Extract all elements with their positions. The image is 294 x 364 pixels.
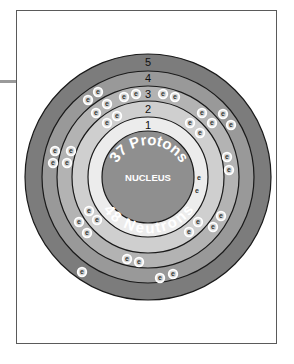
electron-shell-2: e <box>92 215 102 225</box>
svg-text:e: e <box>171 270 175 277</box>
electron-shell-3: e <box>170 92 180 102</box>
svg-text:e: e <box>219 212 223 219</box>
electron-shell-3: e <box>122 254 132 264</box>
electron-shell-3: e <box>131 89 141 99</box>
svg-text:e: e <box>51 159 55 166</box>
svg-text:e: e <box>69 147 73 154</box>
shell-5-label: 5 <box>145 56 151 68</box>
svg-text:e: e <box>134 90 138 97</box>
svg-text:e: e <box>53 147 57 154</box>
svg-text:e: e <box>198 129 202 136</box>
electron-shell-3: e <box>208 222 218 232</box>
svg-text:e: e <box>125 255 129 262</box>
electron-shell-3: e <box>207 118 217 128</box>
electron-shell-2: e <box>193 217 203 227</box>
svg-text:e: e <box>122 93 126 100</box>
electron-shell-2: e <box>84 206 94 216</box>
svg-text:e: e <box>211 223 215 230</box>
electron-shell-4: e <box>155 273 165 283</box>
electron-shell-3: e <box>66 146 76 156</box>
electron-shell-4: e <box>93 87 103 97</box>
svg-text:e: e <box>197 174 201 181</box>
electron-shell-3: e <box>119 92 129 102</box>
electron-shell-3: e <box>74 217 84 227</box>
svg-text:e: e <box>94 109 98 116</box>
svg-text:e: e <box>137 258 141 265</box>
svg-text:e: e <box>87 207 91 214</box>
svg-text:e: e <box>227 166 231 173</box>
electron-shell-2: e <box>184 227 194 237</box>
electron-shell-3: e <box>197 108 207 118</box>
electron-shell-3: e <box>158 89 168 99</box>
electron-shell-3: e <box>91 108 101 118</box>
svg-text:e: e <box>80 268 84 275</box>
svg-text:e: e <box>173 93 177 100</box>
svg-text:e: e <box>196 218 200 225</box>
electron-shell-3: e <box>224 165 234 175</box>
bohr-atom-diagram: 5 4 3 2 1 37 Protons NUCLEUS 48 Neutrons… <box>0 0 294 364</box>
svg-text:e: e <box>85 229 89 236</box>
electron-shell-3: e <box>62 158 72 168</box>
electron-shell-3: e <box>222 152 232 162</box>
svg-text:e: e <box>161 90 165 97</box>
svg-text:e: e <box>210 119 214 126</box>
electron-shell-2: e <box>112 111 122 121</box>
shell-2-label: 2 <box>145 103 151 115</box>
svg-text:e: e <box>96 88 100 95</box>
electron-shell-4: e <box>226 120 236 130</box>
electron-shell-3: e <box>102 99 112 109</box>
svg-text:e: e <box>115 112 119 119</box>
svg-text:e: e <box>188 119 192 126</box>
svg-text:e: e <box>225 153 229 160</box>
electron-shell-5: e <box>77 267 87 277</box>
svg-text:e: e <box>77 218 81 225</box>
svg-text:e: e <box>200 109 204 116</box>
shell-1-label: 1 <box>145 119 151 131</box>
electron-shell-3: e <box>134 257 144 267</box>
electron-shell-1: e <box>195 187 199 194</box>
electron-shell-3: e <box>216 211 226 221</box>
svg-text:e: e <box>86 96 90 103</box>
svg-text:e: e <box>65 159 69 166</box>
svg-text:e: e <box>95 216 99 223</box>
shell-4-label: 4 <box>145 72 151 84</box>
svg-text:e: e <box>105 100 109 107</box>
svg-text:e: e <box>105 119 109 126</box>
nucleus-label: NUCLEUS <box>125 172 171 183</box>
electron-shell-2: e <box>102 118 112 128</box>
electron-shell-1: e <box>197 174 201 181</box>
electron-shell-4: e <box>50 146 60 156</box>
electron-shell-3: e <box>82 228 92 238</box>
svg-text:e: e <box>221 110 225 117</box>
electron-shell-2: e <box>195 128 205 138</box>
svg-text:e: e <box>229 121 233 128</box>
electron-shell-2: e <box>185 118 195 128</box>
electron-shell-4: e <box>83 95 93 105</box>
svg-text:e: e <box>187 228 191 235</box>
svg-text:e: e <box>195 187 199 194</box>
electron-shell-4: e <box>48 158 58 168</box>
electron-shell-4: e <box>218 109 228 119</box>
electron-shell-4: e <box>168 269 178 279</box>
shell-3-label: 3 <box>145 88 151 100</box>
svg-text:e: e <box>158 274 162 281</box>
